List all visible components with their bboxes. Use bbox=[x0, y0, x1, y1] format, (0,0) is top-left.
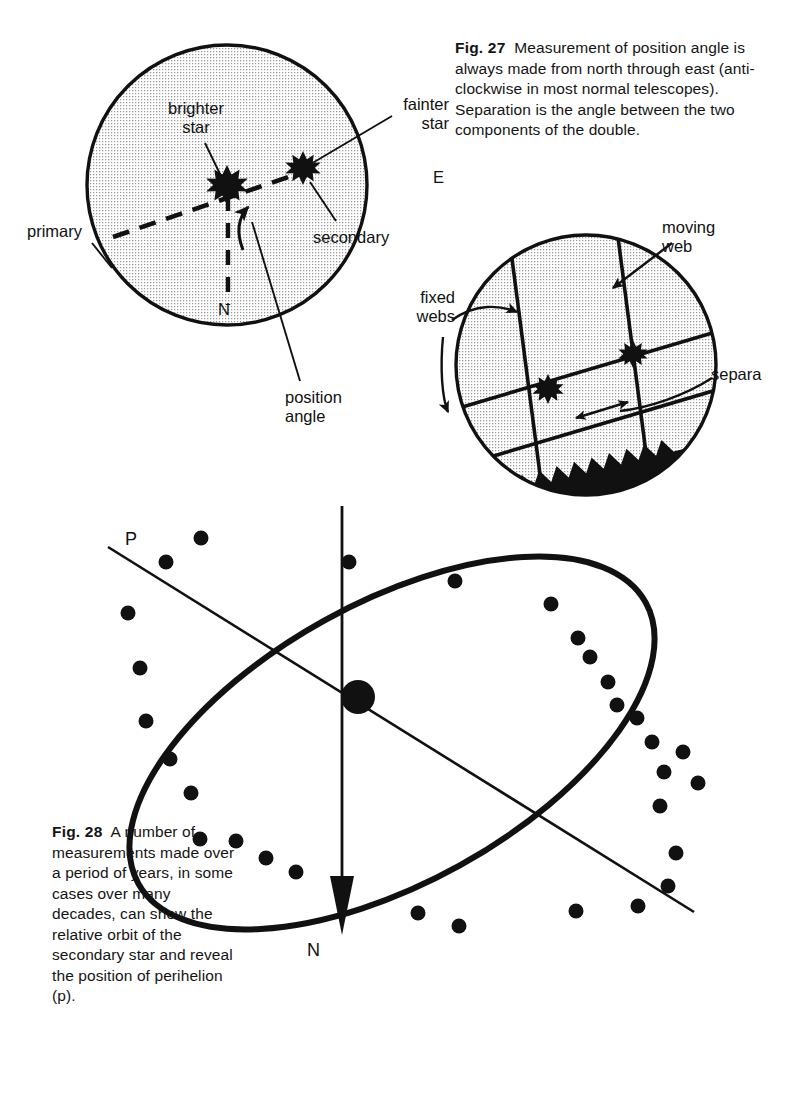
observation-point bbox=[583, 650, 598, 665]
observation-point bbox=[133, 661, 148, 676]
micrometer-secondary-star-glyph bbox=[618, 340, 647, 368]
fixed-web-right bbox=[616, 222, 652, 499]
label-secondary: secondary bbox=[313, 228, 389, 247]
observation-point bbox=[645, 735, 660, 750]
moving-web-upper bbox=[452, 330, 722, 410]
leader-fainter-star bbox=[304, 116, 392, 168]
figure-27-caption: Fig. 27 Measurement of position angle is… bbox=[455, 38, 777, 141]
label-separation: separa bbox=[711, 365, 761, 384]
observation-point bbox=[194, 531, 209, 546]
observation-point bbox=[159, 555, 174, 570]
north-direction-indicator bbox=[330, 506, 354, 935]
separation-measure-arrows bbox=[576, 402, 628, 418]
fixed-web-lines bbox=[508, 222, 652, 505]
label-position-angle: position angle bbox=[285, 388, 342, 426]
moving-web-lower bbox=[446, 390, 716, 470]
observation-point bbox=[259, 851, 274, 866]
observation-point bbox=[610, 698, 625, 713]
observation-point bbox=[661, 879, 676, 894]
observation-point bbox=[691, 776, 706, 791]
leader-brighter-star bbox=[205, 143, 221, 176]
observation-point bbox=[139, 714, 154, 729]
field-of-view-circle bbox=[87, 45, 367, 325]
figure-28-caption-text: A number of measurements made over a per… bbox=[52, 823, 234, 1004]
label-perihelion-p: P bbox=[125, 530, 137, 549]
leader-fixed-webs-lower bbox=[442, 337, 448, 412]
primary-star-focus-marker bbox=[341, 680, 375, 714]
observation-point bbox=[653, 799, 668, 814]
micrometer-field-circle bbox=[456, 235, 716, 495]
micrometer-primary-star-glyph bbox=[532, 374, 563, 404]
observation-point bbox=[184, 786, 199, 801]
north-arrowhead bbox=[330, 876, 354, 935]
label-primary: primary bbox=[27, 222, 82, 241]
observation-point bbox=[452, 919, 467, 934]
figure-page: Fig. 27 Measurement of position angle is… bbox=[0, 0, 787, 1099]
label-brighter-star: brighter star bbox=[168, 99, 224, 137]
micrometer-serrated-scale bbox=[495, 418, 763, 543]
fig27-field-of-view-diagram bbox=[87, 45, 392, 381]
observation-point bbox=[669, 846, 684, 861]
observation-point bbox=[289, 865, 304, 880]
observation-point bbox=[676, 745, 691, 760]
observation-point bbox=[544, 597, 559, 612]
figure-28-caption: Fig. 28 A number of measurements made ov… bbox=[52, 822, 237, 1007]
observation-point bbox=[630, 711, 645, 726]
leader-position-angle bbox=[252, 222, 300, 381]
observation-point bbox=[121, 606, 136, 621]
observation-point bbox=[448, 574, 463, 589]
leader-primary bbox=[92, 243, 112, 268]
label-fainter-star: fainter star bbox=[383, 95, 449, 133]
observation-point bbox=[631, 899, 646, 914]
fixed-web-left bbox=[508, 228, 544, 505]
label-fixed-webs: fixed webs bbox=[391, 288, 455, 326]
observation-point bbox=[342, 555, 357, 570]
secondary-star-glyph bbox=[285, 151, 320, 185]
label-north-orbit: N bbox=[307, 941, 320, 960]
label-moving-web: moving web bbox=[662, 218, 715, 256]
moving-web-lines bbox=[446, 330, 722, 470]
figure-27-number: Fig. 27 bbox=[455, 39, 506, 56]
observation-point bbox=[571, 631, 586, 646]
label-north-compass: N bbox=[218, 300, 230, 319]
figure-28-number: Fig. 28 bbox=[52, 823, 103, 840]
leader-separation bbox=[620, 378, 712, 411]
label-east-compass: E bbox=[433, 168, 444, 187]
observation-point bbox=[163, 752, 178, 767]
position-angle-arc-arrow bbox=[239, 207, 248, 250]
leader-fixed-webs-upper bbox=[452, 307, 517, 320]
observation-point bbox=[569, 904, 584, 919]
primary-star-glyph bbox=[206, 165, 248, 205]
observation-point bbox=[411, 906, 426, 921]
leader-secondary bbox=[310, 182, 336, 221]
separation-dashed-line bbox=[113, 172, 303, 237]
observation-point bbox=[657, 765, 672, 780]
observation-point bbox=[601, 675, 616, 690]
